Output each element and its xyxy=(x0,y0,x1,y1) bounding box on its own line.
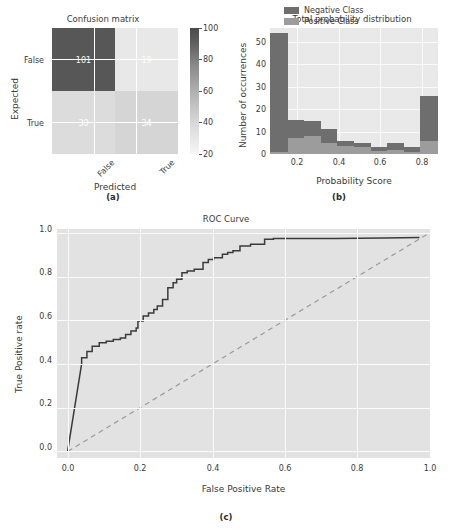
roc-plot-area xyxy=(57,229,430,458)
legend-label-positive-class: Positive Class xyxy=(304,17,358,26)
caption-c: (c) xyxy=(0,512,452,522)
hist-bar-pos-5 xyxy=(354,147,371,154)
cm-xtick-true: True xyxy=(158,158,176,176)
hist-bar-pos-8 xyxy=(404,152,421,154)
roc-curve-line xyxy=(68,238,420,452)
hist-bar-pos-4 xyxy=(337,146,354,154)
confusion-matrix-plot-area: 101 19 30 34 xyxy=(52,28,178,154)
roc-title: ROC Curve xyxy=(0,214,452,224)
cm-value-true-false: 30 xyxy=(52,119,115,128)
cm-ytick-false: False xyxy=(0,56,44,65)
cm-ytick-true: True xyxy=(0,119,44,128)
chance-diagonal-line xyxy=(68,233,430,451)
colorbar xyxy=(190,28,199,154)
hist-bar-pos-1 xyxy=(288,138,305,154)
cm-yaxis-label: Expected xyxy=(10,78,20,120)
colorbar-tick-60: 60 xyxy=(203,87,213,96)
caption-a: (a) xyxy=(0,192,226,202)
confusion-matrix-title: Confusion matrix xyxy=(18,14,188,24)
roc-curve-panel: ROC Curve 1.0 0.8 0.6 0.4 0.2 0.0 0.0 0.… xyxy=(0,205,452,532)
roc-ytick-0.2: 0.2 xyxy=(12,399,52,408)
legend-entry-positive-class: Positive Class xyxy=(284,17,364,26)
roc-xtick-0.6: 0.6 xyxy=(265,464,305,473)
cm-value-false-false: 101 xyxy=(52,56,115,65)
hist-bar-pos-2 xyxy=(304,136,321,154)
hist-xaxis-label: Probability Score xyxy=(270,176,438,186)
hist-bar-pos-0 xyxy=(270,152,288,154)
roc-xtick-0.0: 0.0 xyxy=(48,464,88,473)
legend-entry-negative-class: Negative Class xyxy=(284,6,364,15)
roc-yaxis-label: True Positive rate xyxy=(14,315,24,393)
legend-swatch-positive-class xyxy=(284,18,299,25)
caption-b: (b) xyxy=(226,192,452,202)
roc-ytick-0.8: 0.8 xyxy=(12,268,52,277)
roc-ytick-0.0: 0.0 xyxy=(12,443,52,452)
legend-label-negative-class: Negative Class xyxy=(304,6,364,15)
hist-bar-pos-7 xyxy=(387,150,404,155)
roc-ytick-1.0: 1.0 xyxy=(12,225,52,234)
roc-xaxis-label: False Positive Rate xyxy=(57,484,430,494)
roc-xtick-0.2: 0.2 xyxy=(120,464,160,473)
probability-distribution-panel: Total probability distribution xyxy=(226,0,452,205)
confusion-matrix-panel: Confusion matrix 101 19 30 34 False True… xyxy=(0,0,226,205)
roc-curve-svg xyxy=(57,229,430,458)
hist-xtick-0.4: 0.4 xyxy=(319,158,359,167)
hist-bar-pos-3 xyxy=(321,143,338,154)
roc-xtick-0.8: 0.8 xyxy=(337,464,377,473)
hist-yaxis-label: Number of occurrences xyxy=(238,43,248,148)
cm-value-true-true: 34 xyxy=(115,119,178,128)
hist-bar-pos-9 xyxy=(420,141,438,155)
hist-bar-neg-0 xyxy=(270,33,288,155)
legend-swatch-negative-class xyxy=(284,7,299,14)
cm-xaxis-label: Predicted xyxy=(52,182,178,192)
colorbar-tick-40: 40 xyxy=(203,118,213,127)
hist-bar-pos-6 xyxy=(371,151,388,154)
colorbar-tick-20: 20 xyxy=(203,150,213,159)
cm-value-false-true: 19 xyxy=(115,56,178,65)
roc-xtick-1.0: 1.0 xyxy=(410,464,450,473)
roc-xtick-0.4: 0.4 xyxy=(193,464,233,473)
hist-xtick-0.6: 0.6 xyxy=(360,158,400,167)
histogram-legend: Negative Class Positive Class xyxy=(284,6,364,28)
cm-xtick-false: False xyxy=(96,158,117,179)
colorbar-tick-100: 100 xyxy=(203,24,218,33)
hist-ytick-0: 0 xyxy=(226,150,266,159)
histogram-plot-area xyxy=(270,28,438,154)
hist-xtick-0.2: 0.2 xyxy=(277,158,317,167)
hist-xtick-0.8: 0.8 xyxy=(402,158,442,167)
colorbar-tick-80: 80 xyxy=(203,55,213,64)
